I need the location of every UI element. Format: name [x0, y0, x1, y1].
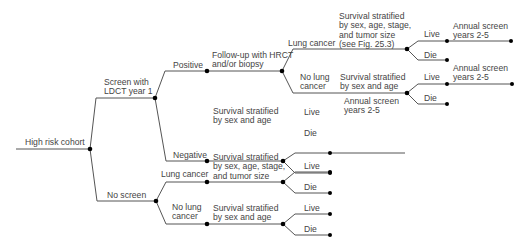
label-live: Live: [424, 73, 440, 82]
label-live: Live: [304, 108, 320, 117]
label-die: Die: [424, 51, 437, 60]
label-annual-screen: Annual screen years 2-5: [344, 97, 399, 116]
label-no-screen: No screen: [107, 191, 146, 200]
label-survival-sexage-neg: Survival stratified by sex and age: [213, 107, 278, 126]
label-die: Die: [304, 129, 317, 138]
label-positive: Positive: [173, 61, 203, 70]
label-followup: Follow-up with HRCT and/or biopsy: [212, 51, 293, 70]
label-live: Live: [304, 204, 320, 213]
label-survival-full-1: Survival stratified by sex, age, stage, …: [339, 12, 411, 50]
label-negative: Negative: [173, 151, 207, 160]
label-live: Live: [304, 162, 320, 171]
label-screen: Screen with LDCT year 1: [104, 78, 153, 97]
label-survival-full-2: Survival stratified by sex, age, stage, …: [213, 153, 285, 181]
label-no-lung-cancer-1: No lung cancer: [300, 73, 330, 92]
label-lung-cancer-2: Lung cancer: [161, 170, 208, 179]
label-survival-sexage-1: Survival stratified by sex and age: [340, 73, 405, 92]
label-annual-screen: Annual screen years 2-5: [453, 64, 508, 83]
label-lung-cancer-1: Lung cancer: [288, 39, 335, 48]
label-die: Die: [304, 183, 317, 192]
label-root: High risk cohort: [25, 138, 85, 147]
label-annual-screen: Annual screen years 2-5: [453, 22, 508, 41]
label-live: Live: [424, 30, 440, 39]
label-die: Die: [424, 94, 437, 103]
label-survival-sexage-2: Survival stratified by sex and age: [213, 204, 278, 223]
label-die: Die: [304, 225, 317, 234]
label-no-lung-cancer-2: No lung cancer: [172, 203, 202, 222]
